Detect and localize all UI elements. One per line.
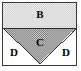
region-label-b: B bbox=[36, 9, 43, 20]
region-label-c: C bbox=[36, 37, 44, 48]
region-label-d-left: D bbox=[10, 47, 18, 58]
figure-root: B C D D bbox=[0, 0, 81, 71]
region-label-d-right: D bbox=[62, 47, 70, 58]
